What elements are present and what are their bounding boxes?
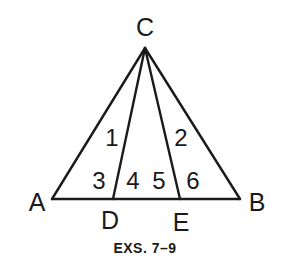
angle-label-3: 3 bbox=[92, 167, 105, 194]
point-label-b: B bbox=[249, 188, 266, 216]
angle-label-1: 1 bbox=[105, 124, 118, 151]
angle-label-4: 4 bbox=[126, 167, 139, 194]
point-label-a: A bbox=[29, 188, 46, 216]
angle-label-6: 6 bbox=[186, 167, 199, 194]
triangle-segments bbox=[52, 48, 240, 199]
angle-label-5: 5 bbox=[152, 167, 165, 194]
point-label-c: C bbox=[136, 13, 154, 41]
point-label-e: E bbox=[173, 208, 190, 236]
point-label-d: D bbox=[101, 206, 119, 234]
figure-caption: EXS. 7–9 bbox=[113, 240, 176, 256]
geometry-diagram: C A B D E 1 2 3 4 5 6 EXS. 7–9 bbox=[0, 0, 281, 277]
angle-label-2: 2 bbox=[174, 124, 187, 151]
